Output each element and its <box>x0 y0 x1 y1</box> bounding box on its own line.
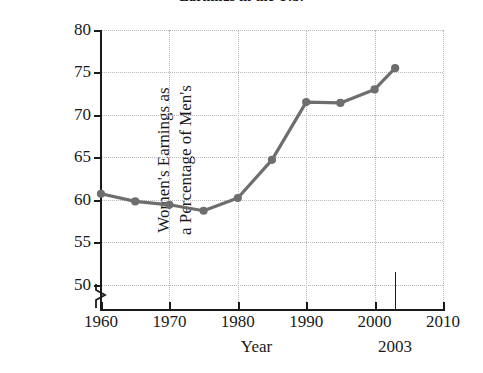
data-point-marker <box>97 190 105 198</box>
x-tick-label: 1980 <box>208 313 268 331</box>
y-axis-title: Women's Earnings as a Percentage of Men'… <box>2 20 58 300</box>
y-tick-label: 60 <box>51 191 91 208</box>
data-point-marker <box>131 197 139 205</box>
y-tick-label: 75 <box>51 63 91 80</box>
axis-break-icon <box>93 284 109 308</box>
data-point-marker <box>371 85 379 93</box>
y-tick-label: 55 <box>51 233 91 250</box>
x-tick-label: 1970 <box>139 313 199 331</box>
annotation-2003-marker-line <box>395 272 396 310</box>
gridline-vertical <box>443 30 444 310</box>
data-point-marker <box>165 201 173 209</box>
x-tick-label: 2000 <box>345 313 405 331</box>
plot-area <box>101 30 443 310</box>
chart-figure: Earnings in the U.S. Women's Earnings as… <box>0 0 483 373</box>
y-tick-label: 80 <box>51 21 91 38</box>
x-tick-label: 1960 <box>71 313 131 331</box>
y-tick-label: 50 <box>51 276 91 293</box>
x-tick-label: 2010 <box>413 313 473 331</box>
data-point-marker <box>234 194 242 202</box>
data-point-marker <box>302 98 310 106</box>
data-point-marker <box>200 207 208 215</box>
x-axis-title: Year <box>0 337 483 357</box>
data-point-marker <box>268 156 276 164</box>
chart-title: Earnings in the U.S. <box>0 0 483 1</box>
data-point-marker <box>336 99 344 107</box>
y-tick-label: 65 <box>51 148 91 165</box>
data-series-line <box>101 30 443 310</box>
data-point-marker <box>391 64 399 72</box>
x-tick-mark <box>443 302 445 311</box>
y-tick-label: 70 <box>51 106 91 123</box>
x-tick-label: 1990 <box>276 313 336 331</box>
